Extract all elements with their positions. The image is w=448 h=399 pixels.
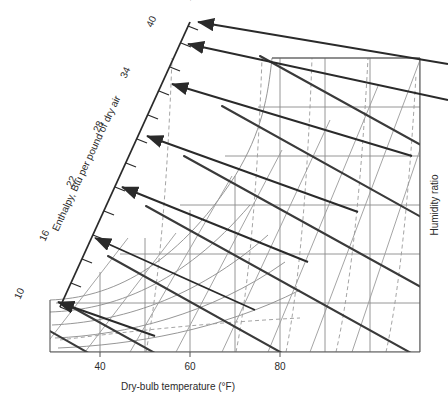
enthalpy-tick-label: 44 (184, 0, 199, 2)
x-axis-ticks (100, 352, 280, 357)
enthalpy-tick-label: 34 (118, 65, 133, 80)
x-tick-label: 60 (184, 361, 196, 372)
x-tick-label: 40 (94, 361, 106, 372)
y-axis-title-humidity-ratio: Humidity ratio (429, 174, 440, 236)
enthalpy-arrow (147, 136, 358, 212)
enthalpy-tick-label: 10 (12, 286, 27, 301)
enthalpy-tick-labels: 10 16 22 28 34 40 44 (12, 0, 199, 301)
enthalpy-scale: 10 16 22 28 34 40 44 Enthalpy, Btu per p… (12, 0, 199, 311)
psychrometric-chart-figure: 40 60 80 Dry-bulb temperature (°F) Humid… (0, 0, 448, 399)
enthalpy-annotation-arrows (58, 22, 448, 336)
saturation-curves (50, 58, 300, 348)
chart-canvas: 40 60 80 Dry-bulb temperature (°F) Humid… (0, 0, 448, 399)
enthalpy-arrow (188, 44, 448, 100)
enthalpy-arrow (58, 302, 155, 336)
enthalpy-tick-label: 16 (37, 228, 52, 243)
x-tick-label: 80 (274, 361, 286, 372)
x-axis-title: Dry-bulb temperature (°F) (121, 381, 235, 392)
enthalpy-axis-title: Enthalpy, Btu per pound of dry air (50, 93, 123, 233)
enthalpy-tick-label: 40 (144, 14, 159, 29)
x-axis-tick-labels: 40 60 80 (94, 361, 286, 372)
